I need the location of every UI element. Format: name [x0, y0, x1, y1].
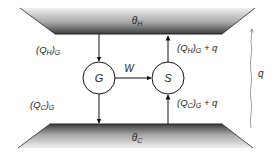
leak-arrow: [250, 29, 252, 128]
qc-s-label: (QC)G + q: [177, 97, 218, 109]
pump-label: S: [164, 72, 172, 84]
pump-node: S: [152, 62, 184, 94]
cold-reservoir: θC: [18, 124, 253, 148]
work-label: W: [124, 63, 135, 74]
diagram-canvas: θH θC W G S (QH)G (QC)G (QH)G + q (QC)G …: [0, 0, 274, 156]
generator-node: G: [83, 62, 115, 94]
generator-label: G: [95, 72, 104, 84]
leak-label: q: [258, 68, 264, 79]
qh-s-label: (QH)G + q: [177, 42, 218, 54]
qc-g-label: (QC)G: [30, 99, 55, 111]
hot-reservoir: θH: [20, 8, 255, 34]
qh-g-label: (QH)G: [36, 44, 61, 56]
